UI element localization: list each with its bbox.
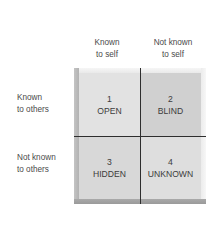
column-header-line2: to self: [74, 49, 140, 61]
column-header-line1: Not known: [140, 37, 206, 49]
johari-window-grid: 1 OPEN 2 BLIND 3 HIDDEN 4 UNKNOWN: [74, 68, 206, 204]
quadrant-number: 4: [168, 156, 173, 168]
row-header-line1: Not known: [17, 152, 56, 164]
column-header-line1: Known: [74, 37, 140, 49]
row-header-not-known-to-others: Not known to others: [17, 152, 56, 176]
row-header-line2: to others: [17, 164, 56, 176]
quadrant-number: 2: [168, 93, 173, 105]
row-header-known-to-others: Known to others: [17, 92, 49, 116]
quadrant-number: 3: [107, 156, 112, 168]
column-header-not-known-to-self: Not known to self: [140, 37, 206, 61]
column-header-line2: to self: [140, 49, 206, 61]
quadrant-label: OPEN: [97, 105, 121, 117]
quadrant-blind: 2 BLIND: [140, 73, 201, 136]
quadrant-label: HIDDEN: [93, 168, 126, 180]
quadrant-number: 1: [107, 93, 112, 105]
row-header-line2: to others: [17, 104, 49, 116]
quadrant-unknown: 4 UNKNOWN: [140, 136, 201, 199]
quadrant-hidden: 3 HIDDEN: [79, 136, 140, 199]
horizontal-divider: [74, 136, 206, 137]
quadrant-open: 1 OPEN: [79, 73, 140, 136]
column-header-known-to-self: Known to self: [74, 37, 140, 61]
quadrant-label: BLIND: [158, 105, 183, 117]
row-header-line1: Known: [17, 92, 49, 104]
quadrant-label: UNKNOWN: [148, 168, 193, 180]
